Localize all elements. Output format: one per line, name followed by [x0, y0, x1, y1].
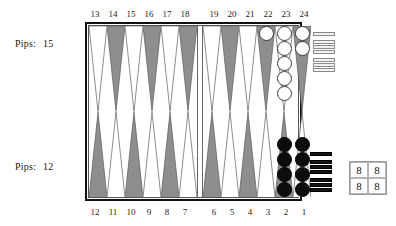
point-11[interactable]	[107, 112, 125, 198]
white-borne-off-piece	[313, 32, 335, 36]
white-borne-off-piece	[313, 68, 335, 72]
point-number-8: 8	[158, 207, 176, 217]
point-number-3: 3	[259, 207, 277, 217]
point-number-9: 9	[140, 207, 158, 217]
point-5[interactable]	[221, 112, 239, 198]
point-number-12: 12	[86, 207, 104, 217]
checker-black[interactable]	[277, 182, 292, 197]
point-4[interactable]	[239, 112, 257, 198]
point-number-4: 4	[241, 207, 259, 217]
point-23[interactable]	[275, 26, 293, 112]
white-borne-off-group-3	[313, 58, 335, 73]
checker-stack-point-22[interactable]	[257, 26, 275, 41]
white-borne-off-piece	[313, 58, 335, 62]
white-borne-off-piece	[313, 63, 335, 67]
board-inner	[88, 25, 299, 198]
black-borne-off-group-3	[310, 178, 332, 193]
point-16[interactable]	[143, 26, 161, 112]
pips-bottom-word: Pips:	[15, 161, 36, 172]
quadrant-top-left	[89, 26, 197, 112]
point-number-1: 1	[295, 207, 313, 217]
point-22[interactable]	[257, 26, 275, 112]
board-half-bottom	[89, 112, 298, 198]
point-numbers-bottom-right: 654321	[205, 207, 313, 217]
black-borne-off-group-2	[310, 160, 332, 175]
black-borne-off-piece	[310, 165, 332, 169]
point-number-17: 17	[158, 9, 176, 19]
checker-white[interactable]	[295, 26, 310, 41]
point-number-15: 15	[122, 9, 140, 19]
checker-stack-point-24[interactable]	[293, 26, 311, 56]
point-2[interactable]	[275, 112, 293, 198]
point-number-23: 23	[277, 9, 295, 19]
point-9[interactable]	[143, 112, 161, 198]
quadrant-top-right	[203, 26, 301, 112]
board-frame	[85, 22, 302, 201]
point-14[interactable]	[107, 26, 125, 112]
point-19[interactable]	[203, 26, 221, 112]
point-20[interactable]	[221, 26, 239, 112]
checker-white[interactable]	[277, 71, 292, 86]
point-number-6: 6	[205, 207, 223, 217]
checker-white[interactable]	[277, 41, 292, 56]
checker-black[interactable]	[277, 137, 292, 152]
die-2[interactable]: 8	[368, 162, 386, 178]
pips-label-bottom: Pips:12	[15, 161, 53, 172]
checker-black[interactable]	[277, 167, 292, 182]
checker-white[interactable]	[295, 41, 310, 56]
checker-white[interactable]	[277, 26, 292, 41]
point-17[interactable]	[161, 26, 179, 112]
point-1[interactable]	[293, 112, 311, 198]
point-7[interactable]	[179, 112, 197, 198]
point-numbers-top-right: 192021222324	[205, 9, 313, 19]
quadrant-bottom-left	[89, 112, 197, 198]
white-borne-off-piece	[313, 40, 335, 44]
point-number-20: 20	[223, 9, 241, 19]
checker-black[interactable]	[295, 137, 310, 152]
point-number-19: 19	[205, 9, 223, 19]
point-3[interactable]	[257, 112, 275, 198]
checker-black[interactable]	[295, 152, 310, 167]
point-number-7: 7	[176, 207, 194, 217]
point-12[interactable]	[89, 112, 107, 198]
point-numbers-bottom-left: 121110987	[86, 207, 194, 217]
checker-black[interactable]	[277, 152, 292, 167]
board-half-top	[89, 26, 298, 112]
point-number-2: 2	[277, 207, 295, 217]
checker-stack-point-23[interactable]	[275, 26, 293, 101]
white-borne-off-group-2	[313, 40, 335, 55]
pips-bottom-value: 12	[43, 161, 53, 172]
point-number-22: 22	[259, 9, 277, 19]
point-21[interactable]	[239, 26, 257, 112]
checker-black[interactable]	[295, 182, 310, 197]
point-number-11: 11	[104, 207, 122, 217]
die-1[interactable]: 8	[350, 162, 368, 178]
die-3[interactable]: 8	[350, 178, 368, 194]
black-borne-off-tray	[310, 152, 332, 196]
black-borne-off-piece	[310, 170, 332, 174]
point-number-14: 14	[104, 9, 122, 19]
checker-white[interactable]	[277, 56, 292, 71]
point-18[interactable]	[179, 26, 197, 112]
point-number-21: 21	[241, 9, 259, 19]
point-15[interactable]	[125, 26, 143, 112]
pips-label-top: Pips:15	[15, 38, 53, 49]
checker-black[interactable]	[295, 167, 310, 182]
die-4[interactable]: 8	[368, 178, 386, 194]
point-number-5: 5	[223, 207, 241, 217]
dice-grid[interactable]: 8888	[349, 161, 387, 195]
checker-white[interactable]	[259, 26, 274, 41]
point-6[interactable]	[203, 112, 221, 198]
checker-stack-point-2[interactable]	[275, 137, 293, 197]
checker-white[interactable]	[277, 86, 292, 101]
black-borne-off-group-1	[310, 152, 332, 157]
white-borne-off-group-1	[313, 32, 335, 37]
point-10[interactable]	[125, 112, 143, 198]
black-borne-off-piece	[310, 183, 332, 187]
point-24[interactable]	[293, 26, 311, 112]
point-numbers-top-left: 131415161718	[86, 9, 194, 19]
checker-stack-point-1[interactable]	[293, 137, 311, 197]
point-8[interactable]	[161, 112, 179, 198]
point-13[interactable]	[89, 26, 107, 112]
point-numbers-bottom: 121110987 654321	[86, 205, 302, 219]
